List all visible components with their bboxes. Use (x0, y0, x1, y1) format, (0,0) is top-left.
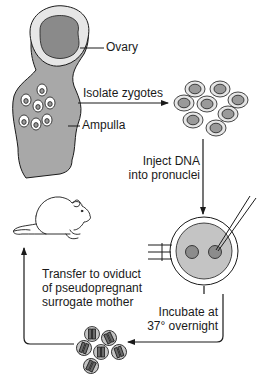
ampulla-label: Ampulla (82, 119, 125, 132)
ovary-label: Ovary (106, 41, 138, 54)
mouse-illustration (13, 197, 90, 239)
cytoplasm (176, 223, 232, 279)
pronucleus-right (209, 246, 222, 259)
transfer-label-line2: of pseudopregnant (42, 282, 142, 295)
two-cell-embryos (74, 327, 128, 376)
transfer-label-line1: Transfer to oviduct (42, 268, 141, 281)
isolated-zygotes (174, 81, 248, 136)
transgenic-mouse-diagram (0, 0, 264, 382)
isolate-zygotes-label: Isolate zygotes (83, 87, 163, 100)
incubate-label-line2: 37° overnight (147, 320, 218, 333)
ovary (40, 16, 79, 59)
inject-label-line1: Inject DNA (143, 155, 200, 168)
microinjection-zygote (148, 196, 256, 285)
incubate-label-line1: Incubate at (159, 306, 218, 319)
pronucleus-left (186, 246, 199, 259)
holding-pipette (148, 243, 172, 261)
transfer-label-line3: surrogate mother (42, 296, 133, 309)
inject-label-line2: into pronuclei (129, 169, 200, 182)
